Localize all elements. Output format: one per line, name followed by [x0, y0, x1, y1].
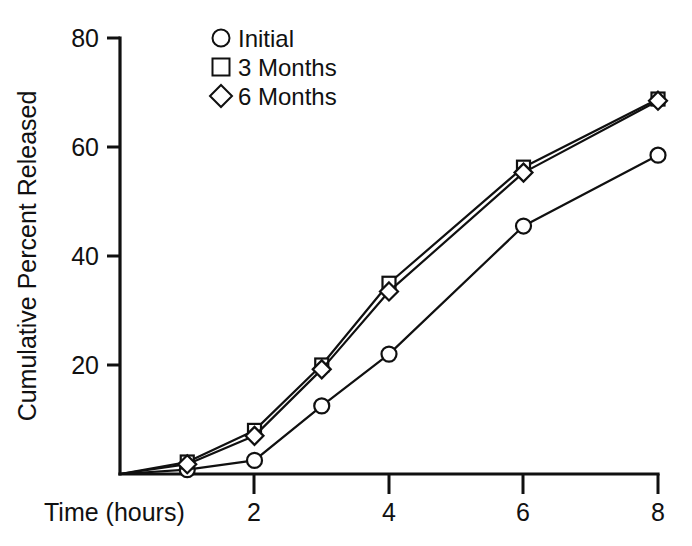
legend-item-6-months: 6 Months: [210, 83, 337, 110]
chart-figure: 80 60 40 20 2 4 6 8 Time (hours) Cumulat…: [0, 0, 692, 546]
data-point-circle: [651, 148, 666, 163]
chart-legend: Initial3 Months6 Months: [210, 25, 337, 110]
y-tick-label-40: 40: [71, 242, 99, 270]
legend-label: 3 Months: [238, 54, 337, 81]
y-axis-title: Cumulative Percent Released: [13, 91, 41, 422]
y-tick-label-20: 20: [71, 351, 99, 379]
dissolution-line-chart: 80 60 40 20 2 4 6 8 Time (hours) Cumulat…: [0, 0, 692, 546]
y-tick-label-80: 80: [71, 24, 99, 52]
series-3-months: [120, 93, 665, 474]
x-axis-tick-labels: 2 4 6 8: [247, 498, 665, 526]
x-tick-label-2: 2: [247, 498, 261, 526]
legend-label: 6 Months: [238, 83, 337, 110]
data-point-circle: [516, 219, 531, 234]
data-point-circle: [247, 453, 262, 468]
x-axis-ticks: [254, 474, 658, 494]
axes-group: [120, 38, 658, 474]
data-point-circle: [382, 347, 397, 362]
series-line: [120, 155, 658, 474]
data-point-circle: [314, 398, 329, 413]
x-tick-label-4: 4: [382, 498, 396, 526]
series-initial: [120, 148, 666, 477]
legend-marker-square-icon: [213, 59, 230, 76]
legend-marker-diamond-icon: [210, 85, 232, 107]
y-tick-label-60: 60: [71, 133, 99, 161]
legend-label: Initial: [238, 25, 294, 52]
y-axis-ticks: [107, 38, 120, 365]
x-tick-label-8: 8: [651, 498, 665, 526]
y-axis-tick-labels: 80 60 40 20: [71, 24, 99, 379]
x-axis-title: Time (hours): [44, 498, 185, 526]
x-tick-label-6: 6: [516, 498, 530, 526]
legend-item-3-months: 3 Months: [213, 54, 337, 81]
series-layer: [120, 92, 667, 477]
legend-marker-circle-icon: [213, 30, 230, 47]
legend-item-initial: Initial: [213, 25, 295, 52]
